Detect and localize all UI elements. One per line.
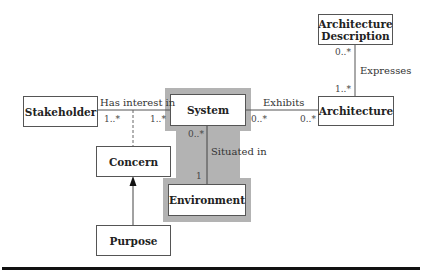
stakeholder-label: Stakeholder	[25, 106, 96, 118]
situated-in-label: Situated in	[211, 146, 267, 157]
arrow-head-icon	[130, 176, 137, 186]
purpose-box: Purpose	[96, 225, 171, 256]
system-box: System	[170, 94, 246, 126]
architecture-description-label-line1: Architecture	[318, 18, 392, 30]
architecture-box: Architecture	[318, 96, 394, 126]
expresses-target-mult: 1..*	[335, 84, 351, 94]
system-label: System	[187, 104, 229, 116]
bottom-rule	[2, 267, 420, 270]
situated-in-target-mult: 1	[196, 171, 202, 181]
has-interest-in-label: Has interest in	[100, 97, 175, 108]
architecture-description-label-line2: Description	[321, 30, 389, 42]
concern-box: Concern	[96, 146, 171, 177]
exhibits-target-mult: 0..*	[300, 114, 316, 124]
diagram-canvas: Stakeholder System Architecture Architec…	[0, 0, 422, 274]
stakeholder-box: Stakeholder	[23, 96, 98, 127]
environment-box: Environment	[168, 184, 246, 216]
environment-label: Environment	[169, 194, 245, 206]
architecture-description-box: Architecture Description	[318, 14, 393, 45]
has-interest-in-target-mult: 1..*	[150, 114, 166, 124]
purpose-label: Purpose	[110, 235, 158, 247]
exhibits-source-mult: 0..*	[251, 114, 267, 124]
architecture-label: Architecture	[319, 105, 393, 117]
concern-label: Concern	[109, 156, 158, 168]
has-interest-in-source-mult: 1..*	[104, 114, 120, 124]
situated-in-source-mult: 0..*	[188, 129, 204, 139]
expresses-label: Expresses	[360, 65, 411, 76]
expresses-source-mult: 0..*	[335, 47, 351, 57]
exhibits-label: Exhibits	[263, 97, 304, 108]
